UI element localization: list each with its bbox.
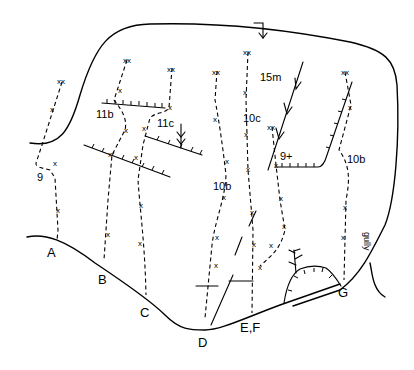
start-c: C xyxy=(140,305,149,320)
svg-text:xx: xx xyxy=(212,68,220,77)
boulder xyxy=(284,266,341,303)
svg-text:x: x xyxy=(213,115,217,124)
svg-text:x: x xyxy=(258,263,262,272)
svg-text:x: x xyxy=(139,201,143,210)
topo-canvas: gully xyxy=(0,0,414,370)
svg-text:x: x xyxy=(269,241,273,250)
svg-text:x: x xyxy=(138,239,142,248)
descent-arrow-icon xyxy=(177,124,185,148)
svg-text:x: x xyxy=(108,150,112,159)
rappel-length: 15m xyxy=(260,71,281,83)
boulder-ticks xyxy=(288,268,332,291)
grade-route-g: 10b xyxy=(347,153,365,165)
svg-text:x: x xyxy=(53,159,57,168)
svg-text:x: x xyxy=(343,203,347,212)
svg-text:x: x xyxy=(124,126,128,135)
start-d: D xyxy=(198,335,207,350)
crack-3 xyxy=(211,275,233,325)
svg-text:x: x xyxy=(243,88,247,97)
svg-text:x: x xyxy=(252,240,256,249)
route-e xyxy=(246,52,253,313)
svg-text:xx: xx xyxy=(267,123,275,132)
svg-text:x: x xyxy=(142,124,146,133)
route-c xyxy=(138,68,172,295)
svg-text:xx: xx xyxy=(57,77,65,86)
route-a xyxy=(36,82,62,240)
start-b: B xyxy=(98,272,107,287)
svg-text:xx: xx xyxy=(243,48,251,57)
grade-route-a: 9 xyxy=(37,171,43,183)
bolt-markers: xx x x x xx x x x x xx x x x x x xx x x … xyxy=(50,48,352,272)
roof-lower-left-ticks xyxy=(92,144,164,174)
svg-text:x: x xyxy=(214,261,218,270)
grade-route-b: 11b xyxy=(96,108,114,120)
start-g: G xyxy=(338,285,348,300)
svg-text:x: x xyxy=(56,206,60,215)
svg-text:x: x xyxy=(215,233,219,242)
climbing-topo-diagram: gully xyxy=(0,0,414,370)
svg-text:xx: xx xyxy=(167,65,175,74)
svg-text:x: x xyxy=(134,153,138,162)
svg-text:xx: xx xyxy=(341,68,349,77)
rappel-arrow-icon xyxy=(254,23,267,38)
svg-text:x: x xyxy=(222,193,226,202)
svg-text:x: x xyxy=(250,208,254,217)
roof-middle-ticks xyxy=(157,136,202,154)
svg-text:x: x xyxy=(341,233,345,242)
gully-edge xyxy=(370,263,385,297)
svg-text:x: x xyxy=(106,230,110,239)
crack-1 xyxy=(235,237,242,255)
svg-text:xx: xx xyxy=(123,56,131,65)
svg-text:x: x xyxy=(225,157,229,166)
gully-label: gully xyxy=(362,232,372,251)
grade-route-e: 10c xyxy=(243,112,261,124)
svg-text:x: x xyxy=(118,86,122,95)
start-ef: E,F xyxy=(240,320,260,335)
svg-text:x: x xyxy=(246,165,250,174)
svg-text:x: x xyxy=(168,103,172,112)
grade-route-f: 9+ xyxy=(280,150,293,162)
svg-text:x: x xyxy=(279,194,283,203)
roof-middle xyxy=(145,136,202,155)
svg-text:x: x xyxy=(274,161,278,170)
grade-route-c: 11c xyxy=(157,117,174,129)
svg-text:x: x xyxy=(244,130,248,139)
roof-lower-left xyxy=(84,145,170,177)
start-a: A xyxy=(47,245,56,260)
grade-route-d: 10b xyxy=(213,180,231,192)
svg-text:x: x xyxy=(50,105,54,114)
svg-text:x: x xyxy=(348,103,352,112)
svg-text:x: x xyxy=(282,222,286,231)
ground-line xyxy=(27,236,340,330)
